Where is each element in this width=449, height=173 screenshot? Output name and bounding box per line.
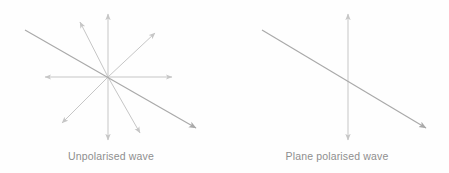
arrow-diagonal-northeast	[108, 33, 155, 77]
arrow-propagation-ray	[262, 30, 426, 128]
arrow-propagation-ray	[25, 30, 196, 128]
arrow-diagonal-southwest	[62, 77, 108, 123]
polarisation-figure: Unpolarised wave Plane polarised wave	[0, 0, 449, 173]
arrow-diagonal-southeast	[108, 77, 140, 133]
panel-plane-polarised	[262, 14, 426, 140]
caption-plane-polarised-wave: Plane polarised wave	[225, 150, 449, 162]
caption-unpolarised-wave: Unpolarised wave	[0, 150, 222, 162]
arrow-diagonal-northwest	[80, 22, 108, 77]
panel-unpolarised	[25, 14, 196, 140]
diagram-canvas	[0, 0, 449, 173]
